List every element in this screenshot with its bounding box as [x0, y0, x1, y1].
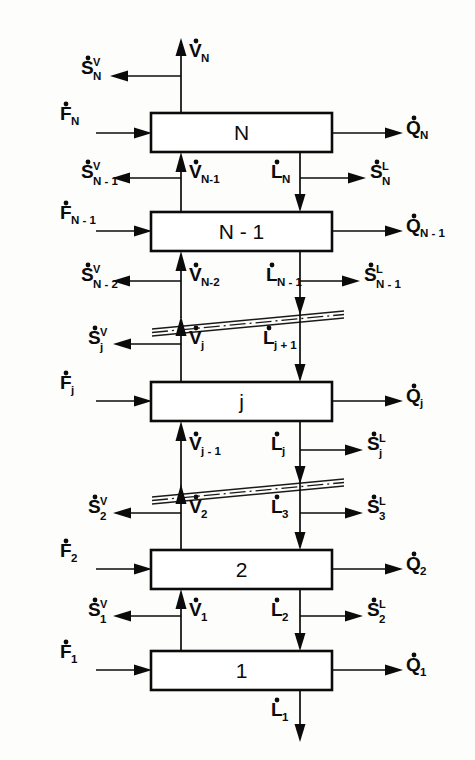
label-s-v-Nm1-base: S: [81, 161, 94, 182]
label-v-j-sub: j: [200, 339, 204, 351]
arrowhead-v-Nm2: [176, 251, 187, 271]
label-q-Nm1: Q N - 1: [406, 214, 446, 239]
label-s-l-Nm1-base: S: [364, 264, 377, 285]
label-s-l-3-base: S: [367, 496, 380, 517]
label-s-v-j-sub: j: [99, 341, 103, 353]
label-s-v-j-base: S: [88, 327, 101, 348]
label-f-Nm1: F N - 1: [60, 201, 97, 226]
label-s-l-j-sup: L: [379, 432, 386, 444]
label-l-N-sub: N: [282, 173, 290, 185]
label-v-j: V j: [189, 326, 204, 351]
label-q-2-sub: 2: [420, 565, 426, 577]
label-s-l-Nm1-sub: N - 1: [376, 278, 402, 290]
label-s-l-3-sup: L: [379, 495, 386, 507]
stage-box-2-label: 2: [236, 558, 248, 581]
arrowhead-s-l-j: [345, 445, 363, 456]
arrowhead-v-1: [176, 589, 187, 609]
arrowhead-l-3: [295, 532, 306, 550]
arrowhead-s-v-j: [113, 339, 131, 350]
stage-box-j-label: j: [238, 390, 244, 413]
label-f-1-base: F: [60, 641, 72, 662]
label-s-v-j: S V j: [88, 326, 108, 353]
arrowhead-s-l-2: [345, 611, 363, 622]
arrowhead-f-2: [134, 564, 152, 575]
label-v-1: V 1: [189, 598, 208, 623]
arrowhead-q-N: [385, 128, 403, 139]
label-q-N-base: Q: [406, 117, 421, 138]
label-s-l-3-sub: 3: [379, 510, 385, 522]
label-l-3: L 3: [271, 495, 288, 520]
label-s-v-Nm1-sup: V: [93, 160, 101, 172]
label-f-Nm1-sub: N - 1: [71, 214, 97, 226]
label-s-v-2-sup: V: [100, 495, 108, 507]
label-l-2: L 2: [271, 598, 288, 623]
label-l-1-sub: 1: [282, 711, 289, 723]
label-s-v-j-sup: V: [100, 326, 108, 338]
label-f-N: F N: [60, 102, 79, 127]
label-l-Nm1: L N - 1: [266, 263, 303, 288]
label-s-l-N-base: S: [370, 161, 383, 182]
label-v-Nm1-sub: N-1: [201, 173, 220, 185]
arrowhead-l-1: [295, 724, 306, 742]
arrowhead-q-Nm1: [385, 226, 403, 237]
label-q-2-base: Q: [406, 553, 421, 574]
label-v-jm1-sub: j - 1: [200, 445, 221, 457]
label-s-v-1-sup: V: [100, 598, 108, 610]
label-s-v-2-sub: 2: [100, 510, 106, 522]
arrowhead-l-2: [295, 633, 306, 651]
arrowhead-s-l-N: [348, 173, 366, 184]
arrowhead-s-l-3: [345, 508, 363, 519]
arrowhead-f-N: [134, 128, 152, 139]
arrowhead-s-v-1: [113, 611, 131, 622]
label-v-Nm1: V N-1: [189, 160, 220, 185]
label-q-j-sub: j: [419, 397, 423, 409]
label-s-l-Nm1: S L N - 1: [364, 263, 402, 290]
label-s-l-2: S L 2: [367, 598, 386, 625]
arrowhead-v-jm1: [176, 421, 187, 441]
label-s-l-Nm1-sup: L: [376, 263, 383, 275]
label-f-j-sub: j: [70, 384, 74, 396]
arrowhead-q-1: [385, 665, 403, 676]
label-s-v-Nm2-base: S: [81, 264, 94, 285]
label-q-Nm1-sub: N - 1: [420, 227, 446, 239]
label-l-N: L N: [271, 160, 290, 185]
label-l-Nm1-sub: N - 1: [277, 276, 303, 288]
label-s-v-2: S V 2: [88, 495, 108, 522]
arrowhead-l-jp1: [295, 364, 306, 382]
label-s-v-2-base: S: [88, 496, 101, 517]
label-v-1-sub: 1: [201, 611, 208, 623]
label-s-l-N-sup: L: [382, 160, 389, 172]
label-f-N-sub: N: [71, 115, 79, 127]
label-l-jp1-sub: j + 1: [273, 339, 297, 351]
label-v-Nm2-sub: N-2: [201, 276, 220, 288]
label-s-v-N: S V N: [81, 56, 101, 82]
label-s-v-Nm1: S V N - 1: [81, 160, 119, 187]
label-s-v-N-sup: V: [93, 56, 101, 68]
label-v-top: V N: [189, 39, 209, 64]
arrowhead-s-l-Nm1: [342, 276, 360, 287]
cascade-flow-diagram: N N - 1 j: [0, 0, 475, 760]
arrowhead-q-2: [385, 564, 403, 575]
label-s-v-Nm2-sup: V: [93, 263, 101, 275]
label-s-l-2-sup: L: [379, 598, 386, 610]
label-f-2-sub: 2: [71, 552, 77, 564]
arrowhead-s-v-N: [110, 71, 128, 82]
label-q-Nm1-base: Q: [406, 215, 421, 236]
label-f-1-sub: 1: [71, 653, 78, 665]
label-l-3-sub: 3: [282, 508, 288, 520]
label-f-2-base: F: [60, 540, 72, 561]
label-f-Nm1-base: F: [60, 202, 72, 223]
label-s-v-Nm1-sub: N - 1: [93, 175, 119, 187]
label-s-l-j: S L j: [367, 432, 386, 459]
label-f-1: F 1: [60, 640, 78, 665]
label-s-l-j-base: S: [367, 433, 380, 454]
arrowhead-l-N: [295, 194, 306, 212]
label-q-N: Q N: [406, 116, 428, 141]
label-s-v-1-sub: 1: [100, 613, 107, 625]
stage-box-1-label: 1: [236, 659, 248, 682]
label-s-v-1-base: S: [88, 599, 101, 620]
arrowhead-f-j: [134, 396, 152, 407]
arrowhead-v-Nm1: [176, 152, 187, 172]
label-s-l-3: S L 3: [367, 495, 386, 522]
label-f-j-base: F: [60, 372, 72, 393]
